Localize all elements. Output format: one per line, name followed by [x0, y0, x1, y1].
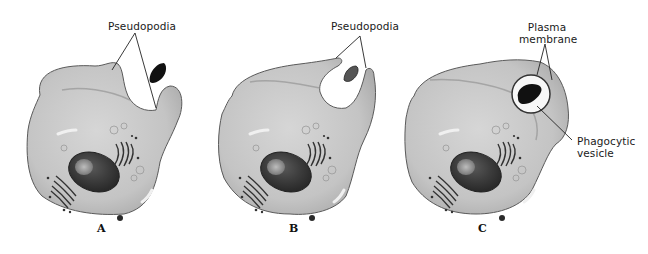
panel-a-cell — [27, 33, 182, 221]
panel-letter-b: B — [289, 222, 298, 235]
label-plasma-membrane-line1: Plasma — [519, 21, 575, 33]
panel-b-cell — [219, 36, 376, 221]
panel-letter-c: C — [478, 222, 487, 235]
panel-letter-a: A — [97, 222, 106, 235]
panel-c-cell — [405, 44, 572, 221]
particle-b — [344, 66, 358, 82]
particle-a — [150, 63, 166, 83]
label-plasma-membrane-line2: membrane — [519, 33, 575, 45]
label-pseudopodia-a: Pseudopodia — [108, 20, 176, 32]
label-phagocytic-vesicle-line2: vesicle — [577, 147, 635, 159]
phagocytosis-figure: Pseudopodia Pseudopodia Plasma membrane … — [0, 0, 648, 254]
label-phagocytic-vesicle-line1: Phagocytic — [577, 135, 635, 147]
label-plasma-membrane: Plasma membrane — [519, 21, 575, 45]
label-phagocytic-vesicle: Phagocytic vesicle — [577, 135, 635, 159]
label-pseudopodia-b: Pseudopodia — [331, 20, 399, 32]
